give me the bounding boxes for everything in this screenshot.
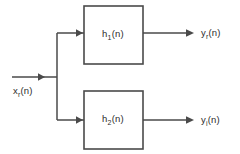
- output-label-yi: yi(n): [201, 115, 220, 127]
- output-label-yi-tail: (n): [208, 114, 220, 125]
- block-h1-label-tail: (n): [112, 28, 124, 39]
- block-h2-label: h2(n): [102, 114, 124, 126]
- block-h2-label-tail: (n): [112, 113, 124, 124]
- h2-input-arrowhead: [76, 116, 83, 124]
- input-label-xr-tail: (n): [20, 85, 32, 96]
- input-arrowhead: [38, 73, 45, 81]
- output-label-yr-tail: (n): [208, 27, 220, 38]
- yr-output-arrowhead: [186, 29, 194, 37]
- diagram-vector-layer: [0, 0, 240, 154]
- h1-input-arrowhead: [76, 29, 83, 37]
- input-label-xr: xr(n): [13, 86, 33, 98]
- yi-output-arrowhead: [186, 116, 194, 124]
- block-diagram-canvas: h1(n) h2(n) xr(n) yr(n) yi(n): [0, 0, 240, 154]
- output-label-yr: yr(n): [201, 28, 221, 40]
- block-h1-label: h1(n): [102, 29, 124, 41]
